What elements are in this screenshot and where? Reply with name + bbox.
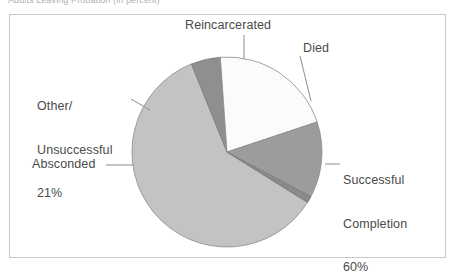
slice-label-died: Died [303, 41, 329, 56]
slice-label-successful-line1: Successful [343, 173, 407, 188]
slice-label-other-line1: Other/ [37, 99, 113, 114]
slice-label-other-line2: Unsuccessful [37, 143, 113, 158]
slice-label-other-value: 21% [37, 186, 113, 201]
slice-label-other-unsuccessful: Other/ Unsuccessful 21% [37, 70, 113, 230]
slice-label-reincarcerated: Reincarcerated [185, 18, 271, 33]
slice-label-successful-completion: Successful Completion 60% [343, 144, 407, 275]
slice-label-successful-value: 60% [343, 260, 407, 275]
slice-label-successful-line2: Completion [343, 217, 407, 232]
slice-label-absconded: Absconded [32, 157, 95, 172]
